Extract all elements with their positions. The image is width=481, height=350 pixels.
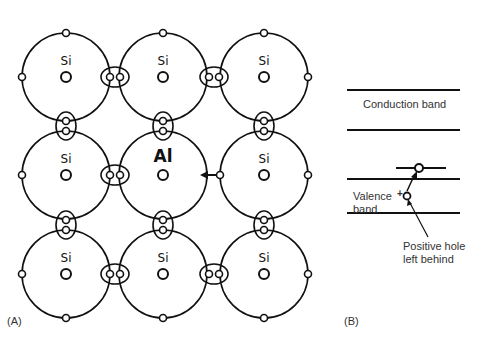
electron-transfer-arrow (200, 171, 216, 179)
atom-label-al: Al (154, 146, 173, 166)
atom-label-si: Si (158, 54, 169, 68)
lattice (22, 33, 308, 318)
conduction-band-label: Conduction band (363, 98, 446, 111)
panel-a-label: (A) (7, 315, 22, 328)
valence-band-label-line1: Valence (353, 190, 392, 203)
valence-band-label-line2: band (353, 203, 377, 216)
atom-label-si: Si (259, 251, 270, 265)
atom-label-si: Si (61, 152, 72, 166)
hole-label-line2: left behind (403, 253, 454, 266)
hole-circle (404, 193, 411, 200)
hole-pointer-arrow (407, 199, 428, 237)
excited-electron (415, 164, 423, 172)
excitation-arrow (407, 171, 417, 191)
panel-b-label: (B) (344, 315, 359, 328)
atom-label-si: Si (61, 54, 72, 68)
atom-label-si: Si (61, 251, 72, 265)
atom-label-si: Si (259, 54, 270, 68)
atom-label-si: Si (158, 251, 169, 265)
atom-label-si: Si (259, 152, 270, 166)
hole-label-line1: Positive hole (403, 240, 465, 253)
plus-sign: + (397, 187, 403, 200)
diagram-canvas (0, 0, 481, 350)
